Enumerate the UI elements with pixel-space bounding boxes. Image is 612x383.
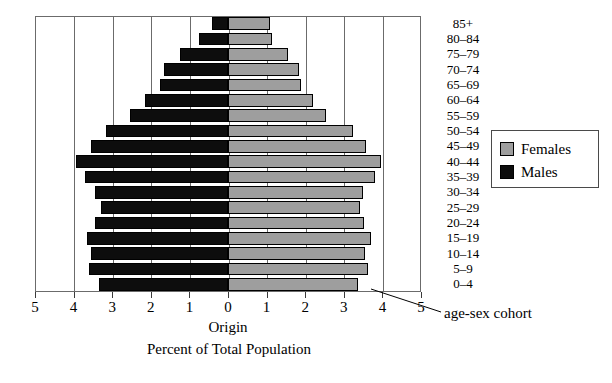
bar-male [199, 33, 228, 46]
age-cohort-label: 0–4 [430, 277, 496, 291]
age-cohort-label: 5–9 [430, 262, 496, 276]
age-cohort-label: 15–19 [430, 231, 496, 245]
bar-row [35, 261, 421, 276]
bar-row [35, 93, 421, 108]
origin-label: Origin [188, 318, 268, 336]
bar-row [35, 77, 421, 92]
bar-male [106, 125, 228, 138]
bar-row [35, 62, 421, 77]
population-pyramid-chart: 54321012345 85+80–8475–7970–7465–6960–64… [0, 0, 612, 383]
bar-row [35, 231, 421, 246]
bar-male [130, 109, 228, 122]
bar-female [228, 155, 381, 168]
bar-female [228, 33, 272, 46]
bar-male [95, 186, 228, 199]
bar-row [35, 215, 421, 230]
bar-male [95, 217, 228, 230]
bar-male [101, 201, 228, 214]
age-cohort-label: 25–29 [430, 201, 496, 215]
age-cohort-label: 85+ [430, 17, 496, 31]
age-cohort-label: 30–34 [430, 185, 496, 199]
bar-female [228, 186, 363, 199]
bar-row [35, 47, 421, 62]
bar-row [35, 154, 421, 169]
bar-male [87, 232, 228, 245]
bar-row [35, 246, 421, 261]
bar-female [228, 201, 360, 214]
bar-male [164, 63, 228, 76]
bar-male [89, 263, 228, 276]
bar-female [228, 140, 366, 153]
bar-male [91, 140, 228, 153]
legend-swatch [500, 165, 514, 179]
x-axis-tick-label: 3 [97, 298, 127, 316]
bar-female [228, 278, 358, 291]
bar-male [145, 94, 228, 107]
x-axis-tick-label: 2 [290, 298, 320, 316]
bar-row [35, 185, 421, 200]
legend-label: Females [521, 140, 571, 158]
age-cohort-label: 75–79 [430, 47, 496, 61]
age-cohort-label: 60–64 [430, 93, 496, 107]
age-cohort-label: 40–44 [430, 155, 496, 169]
bar-row [35, 169, 421, 184]
x-axis-title: Percent of Total Population [118, 340, 340, 358]
bar-female [228, 171, 375, 184]
age-cohort-label: 55–59 [430, 109, 496, 123]
x-axis-tick-label: 5 [20, 298, 50, 316]
bar-female [228, 263, 368, 276]
bar-female [228, 63, 299, 76]
legend-item: Males [500, 161, 558, 183]
bar-male [180, 48, 228, 61]
age-cohort-label: 70–74 [430, 63, 496, 77]
annotation-label: age-sex cohort [444, 304, 532, 322]
bar-female [228, 79, 301, 92]
bar-male [99, 278, 228, 291]
age-cohort-label: 65–69 [430, 78, 496, 92]
age-cohort-label: 50–54 [430, 124, 496, 138]
age-cohort-label: 20–24 [430, 216, 496, 230]
bar-row [35, 31, 421, 46]
bar-female [228, 17, 270, 30]
bar-row [35, 123, 421, 138]
bar-male [76, 155, 228, 168]
x-axis-tick-label: 2 [136, 298, 166, 316]
legend-item: Females [500, 138, 571, 160]
bars-layer [35, 16, 421, 292]
bar-row [35, 200, 421, 215]
bar-male [91, 247, 228, 260]
x-axis-tick-label: 5 [406, 298, 436, 316]
x-axis-tick-label: 0 [213, 298, 243, 316]
x-axis-tick-label: 3 [329, 298, 359, 316]
age-cohort-labels: 85+80–8475–7970–7465–6960–6455–5950–5445… [430, 16, 496, 292]
bar-female [228, 217, 364, 230]
age-cohort-label: 10–14 [430, 247, 496, 261]
legend: FemalesMales [491, 130, 599, 188]
age-cohort-label: 35–39 [430, 170, 496, 184]
bar-female [228, 232, 371, 245]
age-cohort-label: 80–84 [430, 32, 496, 46]
x-axis-tick-label: 1 [174, 298, 204, 316]
bar-female [228, 109, 326, 122]
bar-female [228, 247, 365, 260]
x-axis-tick-label: 4 [367, 298, 397, 316]
bar-female [228, 125, 353, 138]
bar-row [35, 108, 421, 123]
bar-male [160, 79, 228, 92]
bar-female [228, 48, 288, 61]
bar-male [212, 17, 228, 30]
bar-female [228, 94, 313, 107]
legend-label: Males [521, 163, 558, 181]
bar-male [85, 171, 228, 184]
bar-row [35, 16, 421, 31]
age-cohort-label: 45–49 [430, 139, 496, 153]
x-axis-tick-label: 1 [252, 298, 282, 316]
x-axis-tick-label: 4 [59, 298, 89, 316]
bar-row [35, 277, 421, 292]
bar-row [35, 139, 421, 154]
legend-swatch [500, 142, 514, 156]
